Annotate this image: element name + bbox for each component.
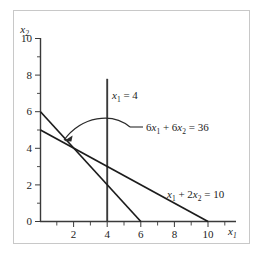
svg-text:x1: x1 xyxy=(227,225,237,240)
label-6x1-6x2-36-p3: = 36 xyxy=(186,121,209,133)
y-tick-label-4: 4 xyxy=(27,142,33,154)
label-6x1-6x2-36-p2: + 6 xyxy=(160,121,178,133)
y-tick-label-8: 8 xyxy=(27,69,33,81)
label-6x1-6x2-36: 6x1 + 6x2 = 36 xyxy=(146,121,209,136)
constraint-line-6x1-6x2-36 xyxy=(41,112,141,222)
label-x1-2x2-10: x1 + 2x2 = 10 xyxy=(166,188,225,203)
y-tick-label-0: 0 xyxy=(27,215,33,227)
svg-text:x1 + 2x2 = 10: x1 + 2x2 = 10 xyxy=(166,188,225,203)
x-tick-label-4: 4 xyxy=(104,228,110,240)
x-tick-label-2: 2 xyxy=(71,228,77,240)
x-axis-title: x1 xyxy=(227,225,237,240)
svg-text:6x1 + 6x2 = 36: 6x1 + 6x2 = 36 xyxy=(146,121,209,136)
label-x1-equals-4: x1 = 4 xyxy=(111,89,138,104)
svg-text:x1 = 4: x1 = 4 xyxy=(111,89,138,104)
x-axis-title-sub: 1 xyxy=(233,231,237,240)
x-tick-label-10: 10 xyxy=(203,228,215,240)
x-tick-label-6: 6 xyxy=(138,228,144,240)
x-axis-major-ticks xyxy=(74,222,208,228)
label-x1-2x2-10-p1: + 2 xyxy=(176,188,193,200)
y-axis-title-sub: 2 xyxy=(25,29,29,38)
linear-programming-graph: 10 8 6 4 2 0 2 4 6 8 10 x2 x1 x1 = 4 xyxy=(0,0,265,264)
label-x1-2x2-10-p2: = 10 xyxy=(202,188,225,200)
figure-container: 10 8 6 4 2 0 2 4 6 8 10 x2 x1 x1 = 4 xyxy=(0,0,265,264)
y-tick-label-2: 2 xyxy=(27,179,33,191)
constraint-line-x1-2x2-10 xyxy=(41,130,209,222)
callout-leader-curve xyxy=(64,118,130,140)
y-tick-label-6: 6 xyxy=(27,105,33,117)
x-tick-label-8: 8 xyxy=(172,228,178,240)
label-x1-equals-4-rest: = 4 xyxy=(121,89,139,101)
